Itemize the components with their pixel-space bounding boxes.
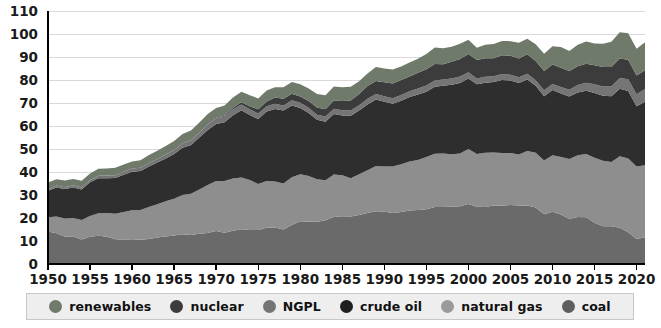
legend-item-crude-oil[interactable]: crude oil xyxy=(340,299,422,314)
y-tick-label: 100 xyxy=(10,26,38,42)
legend-swatch-icon xyxy=(170,300,183,313)
x-tick-label: 1990 xyxy=(366,271,404,285)
legend-swatch-icon xyxy=(441,300,454,313)
chart-canvas: 0102030405060708090100110195019551960196… xyxy=(0,0,661,285)
x-tick-label: 1950 xyxy=(29,271,67,285)
y-tick-label: 60 xyxy=(19,118,38,134)
legend-label: coal xyxy=(582,299,611,314)
chart-legend: renewablesnuclearNGPLcrude oilnatural ga… xyxy=(26,293,634,320)
x-tick-label: 2020 xyxy=(618,271,656,285)
legend-swatch-icon xyxy=(263,300,276,313)
y-tick-label: 20 xyxy=(19,210,38,226)
plot-area: 0102030405060708090100110195019551960196… xyxy=(0,0,661,285)
y-tick-label: 10 xyxy=(19,233,38,249)
legend-label: crude oil xyxy=(360,299,422,314)
y-tick-label: 70 xyxy=(19,95,38,111)
x-tick-label: 1985 xyxy=(324,271,362,285)
legend-item-coal[interactable]: coal xyxy=(562,299,611,314)
legend-item-renewables[interactable]: renewables xyxy=(49,299,151,314)
legend-swatch-icon xyxy=(562,300,575,313)
x-tick-label: 1975 xyxy=(239,271,277,285)
x-tick-label: 1970 xyxy=(197,271,235,285)
x-tick-label: 1980 xyxy=(281,271,319,285)
legend-label: natural gas xyxy=(461,299,542,314)
y-tick-label: 110 xyxy=(10,3,38,19)
x-tick-label: 1960 xyxy=(113,271,151,285)
legend-item-natural-gas[interactable]: natural gas xyxy=(441,299,542,314)
x-tick-label: 1965 xyxy=(155,271,193,285)
x-tick-label: 2015 xyxy=(576,271,614,285)
y-tick-label: 40 xyxy=(19,164,38,180)
y-tick-label: 90 xyxy=(19,49,38,65)
y-tick-label: 50 xyxy=(19,141,38,157)
legend-swatch-icon xyxy=(49,300,62,313)
legend-label: renewables xyxy=(69,299,151,314)
x-tick-label: 2000 xyxy=(450,271,488,285)
x-tick-label: 1995 xyxy=(408,271,446,285)
y-tick-label: 80 xyxy=(19,72,38,88)
y-tick-label: 0 xyxy=(29,256,38,272)
legend-item-nuclear[interactable]: nuclear xyxy=(170,299,243,314)
stacked-area-chart: 0102030405060708090100110195019551960196… xyxy=(0,0,661,328)
x-tick-label: 2010 xyxy=(534,271,572,285)
x-tick-label: 2005 xyxy=(492,271,530,285)
legend-item-NGPL[interactable]: NGPL xyxy=(263,299,321,314)
legend-swatch-icon xyxy=(340,300,353,313)
legend-label: nuclear xyxy=(190,299,243,314)
x-tick-label: 1955 xyxy=(71,271,109,285)
legend-label: NGPL xyxy=(283,299,321,314)
y-tick-label: 30 xyxy=(19,187,38,203)
